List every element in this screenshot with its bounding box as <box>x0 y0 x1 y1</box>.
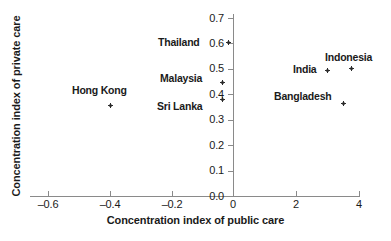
data-point-label: Thailand <box>158 37 200 48</box>
x-axis-tick <box>110 191 111 196</box>
y-axis-tick <box>228 171 233 172</box>
data-point-marker <box>220 97 225 102</box>
data-point-label: Malaysia <box>160 73 202 84</box>
x-axis-tick <box>296 191 297 196</box>
y-axis-tick-label: 0.7 <box>194 13 224 24</box>
data-point-marker <box>325 68 330 73</box>
data-point-label: Indonesia <box>325 52 372 63</box>
x-axis-tick-label: 2 <box>279 199 313 210</box>
data-point-label: Hong Kong <box>72 85 127 96</box>
y-axis-tick <box>228 120 233 121</box>
y-axis-tick <box>228 145 233 146</box>
x-axis-tick <box>48 191 49 196</box>
x-axis-tick-label: –0.6 <box>31 199 65 210</box>
x-axis-title: Concentration index of public care <box>0 214 391 226</box>
x-axis-tick-label: –0.2 <box>155 199 189 210</box>
data-point-label: India <box>293 64 317 75</box>
data-point-marker <box>341 101 346 106</box>
y-axis-tick <box>228 94 233 95</box>
data-point-label: Bangladesh <box>274 91 332 102</box>
x-axis-tick-label: –0.4 <box>93 199 127 210</box>
y-axis-tick <box>228 69 233 70</box>
y-axis-tick-label: 0.2 <box>194 140 224 151</box>
x-axis-tick <box>172 191 173 196</box>
data-point-marker <box>226 40 231 45</box>
x-axis-tick <box>233 191 234 196</box>
y-axis-tick <box>228 18 233 19</box>
y-axis-tick-label: 0.3 <box>194 114 224 125</box>
y-axis-line <box>233 14 234 197</box>
scatter-plot: 0.00.10.20.30.40.50.60.7 –0.6–0.4–0.2024… <box>0 0 391 241</box>
data-point-label: Sri Lanka <box>157 101 202 112</box>
data-point-marker <box>220 80 225 85</box>
y-axis-tick-label: 0.1 <box>194 165 224 176</box>
x-axis-tick <box>359 191 360 196</box>
data-point-marker <box>349 66 354 71</box>
y-axis-tick <box>228 196 233 197</box>
data-point-marker <box>108 103 113 108</box>
x-axis-tick-label: 0 <box>216 199 250 210</box>
y-axis-title: Concentration index of private care <box>10 6 22 206</box>
x-axis-tick-label: 4 <box>342 199 376 210</box>
